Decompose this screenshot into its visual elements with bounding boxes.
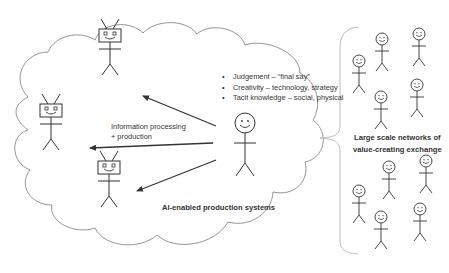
bullet-creativity: Creativity – technology, strategy <box>222 83 344 94</box>
network-title: Large scale networks of value-creating e… <box>353 132 442 155</box>
arrow-label: Information processing + production <box>111 122 186 142</box>
network-title-line2: value-creating exchange <box>353 144 442 156</box>
network-title-line1: Large scale networks of <box>353 132 442 144</box>
bullet-judgement: Judgement – “final say” <box>222 72 344 83</box>
bullet-tacit-knowledge: Tacit knowledge – social, physical <box>222 93 344 104</box>
arrow-to-left-robot <box>90 143 213 148</box>
robot-icon <box>40 94 62 150</box>
arrow-to-bottom-robot <box>137 160 216 191</box>
robot-icon <box>98 151 120 207</box>
arrow-label-line2: + production <box>111 132 186 142</box>
arrow-label-line1: Information processing <box>111 122 186 132</box>
human-icon <box>234 113 256 176</box>
human-capabilities-list: Judgement – “final say” Creativity – tec… <box>222 72 344 104</box>
diagram-canvas: Judgement – “final say” Creativity – tec… <box>0 0 449 273</box>
robot-icon <box>99 19 121 75</box>
cloud-title: AI-enabled production systems <box>162 203 275 212</box>
